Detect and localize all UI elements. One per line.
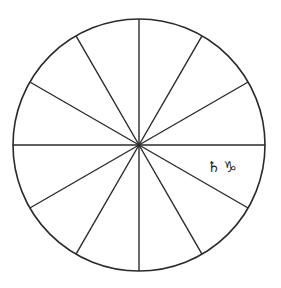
house-cusp-line-11 [139, 145, 202, 254]
house-divider-spokes [13, 19, 265, 271]
house-cusp-line-2 [139, 82, 248, 145]
house-cusp-line-12 [139, 145, 248, 208]
house-cusp-line-9 [76, 145, 139, 254]
saturn-in-capricorn-label: ♄♑ [207, 160, 240, 175]
house-cusp-line-6 [30, 82, 139, 145]
house-cusp-line-3 [139, 36, 202, 145]
house-wheel [0, 0, 281, 288]
saturn-icon: ♄ [207, 158, 223, 176]
house-cusp-line-8 [30, 145, 139, 208]
house-cusp-line-5 [76, 36, 139, 145]
capricorn-icon: ♑ [223, 158, 239, 176]
